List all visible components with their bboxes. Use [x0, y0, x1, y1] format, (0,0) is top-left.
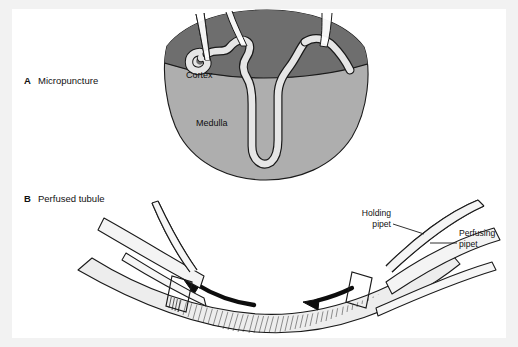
cortex-label: Cortex — [186, 70, 213, 80]
kidney-diagram: Cortex Medulla — [150, 0, 380, 180]
panel-a-letter: A — [24, 75, 31, 86]
medulla-label: Medulla — [196, 118, 228, 128]
panel-a-title: Micropuncture — [38, 75, 98, 86]
holding-pipet-leader — [393, 224, 424, 234]
holding-pipet-label-line2: pipet — [372, 219, 391, 229]
perfusing-pipet-label-line2: pipet — [459, 239, 478, 249]
panel-a-group: A Micropuncture — [24, 0, 380, 180]
holding-pipet-callout: Holding pipet — [362, 208, 424, 234]
perfusing-pipet-label-line1: Perfusing — [459, 228, 496, 238]
holding-pipet-label-line1: Holding — [362, 208, 391, 218]
panel-b-title: Perfused tubule — [38, 193, 105, 204]
figure-root: A Micropuncture — [0, 0, 518, 347]
panel-b-group: B Perfused tubule — [24, 193, 500, 333]
figure-svg: A Micropuncture — [0, 0, 518, 347]
panel-b-letter: B — [24, 193, 31, 204]
perfused-tubule-diagram: Holding pipet Perfusing pipet — [78, 200, 500, 333]
